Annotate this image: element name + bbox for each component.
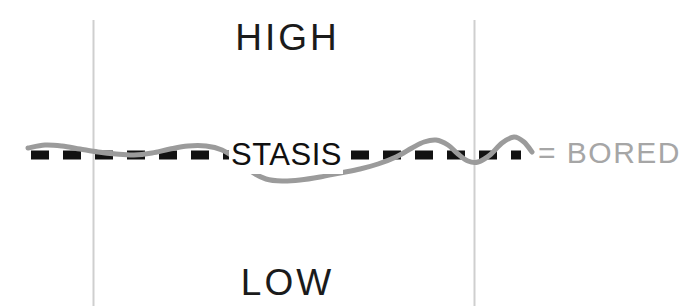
chart-canvas: HIGH STASIS LOW = BORED	[0, 0, 685, 308]
axis-label-low: LOW	[0, 263, 685, 303]
axis-label-high: HIGH	[0, 18, 685, 58]
legend-label-bored: = BORED	[538, 136, 681, 170]
axis-label-stasis: STASIS	[229, 136, 343, 174]
